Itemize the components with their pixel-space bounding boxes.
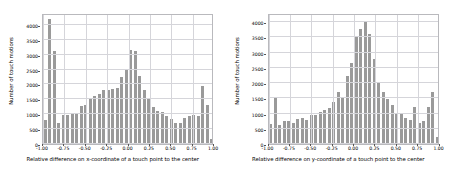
histogram-bar	[350, 63, 353, 144]
gridline-horizontal	[269, 97, 438, 98]
histogram-bar	[98, 94, 101, 144]
y-tick-label: 500	[29, 128, 38, 133]
histogram-figure: Number of touch motions 0500100015002000…	[0, 0, 451, 178]
histogram-bar	[120, 77, 123, 144]
gridline-horizontal	[269, 21, 438, 22]
y-tick-mark	[264, 99, 266, 100]
x-tick-label: 1.00	[433, 146, 443, 151]
plot-area-left	[42, 14, 213, 145]
x-tick-mark	[332, 144, 333, 146]
y-tick-mark	[38, 71, 40, 72]
histogram-bar	[48, 19, 51, 144]
gridline-horizontal	[43, 83, 212, 84]
histogram-bar	[409, 120, 412, 144]
gridline-horizontal	[269, 128, 438, 129]
gridline-horizontal	[43, 98, 212, 99]
histogram-bar	[116, 88, 119, 144]
gridline-vertical	[171, 15, 172, 144]
x-axis-title-left: Relative difference on x-coordinate of a…	[0, 156, 226, 162]
y-tick-mark	[264, 115, 266, 116]
y-tick-label: 3000	[26, 53, 38, 58]
gridline-vertical	[397, 15, 398, 144]
gridline-vertical	[107, 15, 108, 144]
histogram-bar	[179, 123, 182, 144]
y-tick-mark	[264, 38, 266, 39]
gridline-horizontal	[43, 24, 212, 25]
gridline-vertical	[193, 15, 194, 144]
histogram-bar	[138, 76, 141, 144]
y-tick-label: 500	[255, 127, 264, 132]
y-tick-mark	[264, 54, 266, 55]
histogram-bar	[314, 115, 317, 144]
histogram-bar	[183, 118, 186, 144]
gridline-horizontal	[269, 113, 438, 114]
histogram-bar	[201, 86, 204, 144]
x-tick-mark	[289, 144, 290, 146]
histogram-bar	[296, 119, 299, 144]
x-tick-mark	[42, 144, 43, 146]
x-tick-mark	[268, 144, 269, 146]
histogram-bar	[292, 123, 295, 144]
histogram-bar	[44, 120, 47, 144]
histogram-bar	[382, 92, 385, 144]
gridline-vertical	[129, 15, 130, 144]
y-tick-label: 1500	[26, 98, 38, 103]
gridline-horizontal	[43, 54, 212, 55]
gridline-horizontal	[269, 67, 438, 68]
x-tick-mark	[128, 144, 129, 146]
x-tick-mark	[310, 144, 311, 146]
gridline-horizontal	[43, 113, 212, 114]
gridline-horizontal	[43, 39, 212, 40]
x-tick-label: 0.00	[122, 146, 132, 151]
x-tick-mark	[374, 144, 375, 146]
plot-area-right	[268, 14, 439, 145]
y-tick-label: 1500	[252, 97, 264, 102]
y-tick-label: 3500	[26, 38, 38, 43]
histogram-bar	[283, 121, 286, 144]
histogram-bar	[165, 116, 168, 144]
histogram-bar	[391, 105, 394, 144]
panel-x-coordinate: Number of touch motions 0500100015002000…	[0, 0, 226, 178]
x-tick-label: 0.50	[391, 146, 401, 151]
histogram-bar	[422, 121, 425, 144]
x-tick-label: 0.25	[144, 146, 154, 151]
y-tick-label: 2000	[252, 82, 264, 87]
x-tick-label: 0.75	[187, 146, 197, 151]
x-tick-mark	[417, 144, 418, 146]
histogram-bar	[66, 115, 69, 144]
gridline-vertical	[333, 15, 334, 144]
gridline-horizontal	[43, 128, 212, 129]
y-tick-mark	[264, 69, 266, 70]
x-tick-label: 0.75	[412, 146, 422, 151]
x-tick-mark	[213, 144, 214, 146]
gridline-vertical	[290, 15, 291, 144]
histogram-bar	[125, 69, 128, 144]
histogram-bar	[57, 123, 60, 144]
y-tick-label: 3500	[252, 36, 264, 41]
y-tick-label: 2000	[26, 83, 38, 88]
x-axis-ticks-right: -1.00-0.75-0.50-0.250.000.250.500.751.00	[268, 146, 439, 155]
y-tick-mark	[264, 23, 266, 24]
gridline-vertical	[311, 15, 312, 144]
y-tick-mark	[38, 130, 40, 131]
y-tick-label: 2500	[252, 66, 264, 71]
x-tick-label: -0.75	[283, 146, 295, 151]
y-tick-mark	[38, 56, 40, 57]
y-axis-ticks-right: 05001000150020002500300035004000	[240, 14, 266, 145]
y-tick-label: 3000	[252, 51, 264, 56]
y-tick-label: 1000	[252, 112, 264, 117]
histogram-bar	[197, 116, 200, 144]
gridline-vertical	[64, 15, 65, 144]
x-tick-mark	[192, 144, 193, 146]
gridline-vertical	[150, 15, 151, 144]
y-tick-mark	[38, 100, 40, 101]
histogram-bar	[93, 96, 96, 144]
histogram-bar	[206, 105, 209, 144]
x-tick-label: 0.00	[348, 146, 358, 151]
y-tick-mark	[38, 85, 40, 86]
histogram-bar	[129, 50, 132, 144]
gridline-vertical	[375, 15, 376, 144]
y-tick-mark	[264, 130, 266, 131]
y-tick-mark	[264, 84, 266, 85]
x-tick-label: -0.75	[57, 146, 69, 151]
